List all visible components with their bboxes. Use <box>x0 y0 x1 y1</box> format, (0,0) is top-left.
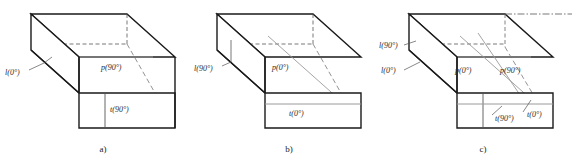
panel-c: l(90°) l(0°) p(0°) p(90°) t(90°) t(0°) c… <box>379 14 572 154</box>
panel-a-label-t90: t(90°) <box>110 105 129 114</box>
panel-c-caption: c) <box>480 144 487 154</box>
panel-a-label-p90: p(90°) <box>100 63 122 72</box>
panel-b-label-p0: p(0°) <box>271 63 289 72</box>
panel-b-caption: b) <box>285 144 293 154</box>
panel-b-label-l90: l(90°) <box>194 64 213 73</box>
panel-a-leader-l0 <box>29 63 44 70</box>
panel-a-label-l0: l(0°) <box>5 68 20 77</box>
panel-c-label-p0: p(0°) <box>454 66 472 75</box>
panel-c-leader-l0 <box>404 62 420 70</box>
panel-b-leader-l90-b <box>222 62 231 66</box>
panel-c-label-p90: p(90°) <box>499 66 521 75</box>
panel-b: l(90°) p(0°) t(0°) b) <box>194 14 361 154</box>
figure-container: l(0°) p(90°) t(90°) a) l(90°) p(0°) t(0°… <box>0 0 576 164</box>
panel-a-caption: a) <box>100 144 107 154</box>
panel-a: l(0°) p(90°) t(90°) a) <box>5 14 175 154</box>
panel-c-label-l0: l(0°) <box>381 66 396 75</box>
panel-b-front-face <box>265 93 361 128</box>
panel-c-label-l90: l(90°) <box>379 41 398 50</box>
panel-c-label-t0: t(0°) <box>527 110 542 119</box>
panel-b-label-t0: t(0°) <box>289 109 304 118</box>
panel-c-label-t90: t(90°) <box>495 114 514 123</box>
